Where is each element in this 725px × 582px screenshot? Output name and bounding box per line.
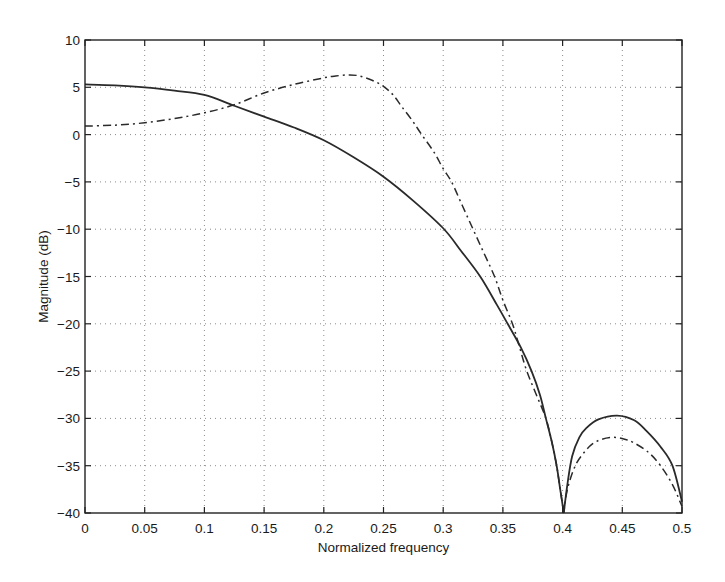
- y-tick-label: −25: [57, 364, 80, 379]
- x-tick-label: 0.35: [490, 521, 516, 536]
- x-axis-label: Normalized frequency: [318, 540, 450, 555]
- x-tick-labels: 00.050.10.150.20.250.30.350.40.450.5: [81, 521, 691, 536]
- x-tick-label: 0.1: [195, 521, 214, 536]
- y-tick-label: −40: [57, 506, 80, 521]
- y-tick-label: 0: [72, 128, 80, 143]
- x-tick-label: 0.45: [609, 521, 635, 536]
- y-tick-label: −5: [65, 175, 80, 190]
- y-axis-label: Magnitude (dB): [36, 230, 51, 322]
- x-tick-label: 0.5: [673, 521, 692, 536]
- x-tick-label: 0.25: [370, 521, 396, 536]
- x-tick-label: 0: [81, 521, 89, 536]
- y-tick-label: 10: [65, 33, 80, 48]
- grid-lines: [85, 40, 682, 513]
- x-tick-label: 0.3: [434, 521, 453, 536]
- y-tick-label: −15: [57, 270, 80, 285]
- x-tick-label: 0.2: [314, 521, 333, 536]
- y-tick-label: 5: [72, 80, 80, 95]
- x-tick-label: 0.4: [553, 521, 572, 536]
- y-tick-label: −30: [57, 411, 80, 426]
- magnitude-response-chart: 00.050.10.150.20.250.30.350.40.450.5 105…: [0, 0, 725, 582]
- y-tick-labels: 1050−5−10−15−20−25−30−35−40: [57, 33, 80, 521]
- solid-response-line: [85, 84, 682, 513]
- y-tick-label: −10: [57, 222, 80, 237]
- x-tick-label: 0.05: [132, 521, 158, 536]
- x-tick-label: 0.15: [251, 521, 277, 536]
- y-tick-label: −35: [57, 459, 80, 474]
- y-tick-label: −20: [57, 317, 80, 332]
